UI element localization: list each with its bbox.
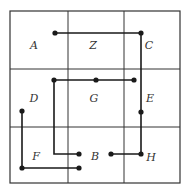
cell-label-g: G — [90, 92, 99, 105]
path-3-line — [22, 111, 79, 168]
path-3 — [19, 108, 81, 170]
node-dot — [19, 108, 24, 113]
cell-label-z: Z — [88, 39, 97, 52]
cell-label-c: C — [145, 39, 154, 52]
node-dot — [138, 151, 143, 156]
node-dot — [93, 77, 98, 82]
node-dot — [138, 30, 143, 35]
node-dot — [138, 109, 143, 114]
cell-labels: AZCDGEFBH — [29, 39, 157, 164]
node-dot — [76, 165, 81, 170]
cell-label-h: H — [145, 151, 156, 164]
node-dot — [76, 151, 81, 156]
node-dot — [52, 30, 57, 35]
node-dot — [108, 151, 113, 156]
cell-label-a: A — [29, 39, 38, 52]
cell-label-d: D — [29, 92, 39, 105]
cell-label-e: E — [145, 92, 154, 105]
node-dot — [51, 77, 56, 82]
node-dot — [19, 165, 24, 170]
grid-diagram: AZCDGEFBH — [0, 0, 188, 194]
cell-label-f: F — [31, 150, 40, 163]
cell-label-b: B — [90, 150, 99, 163]
node-dot — [131, 77, 136, 82]
